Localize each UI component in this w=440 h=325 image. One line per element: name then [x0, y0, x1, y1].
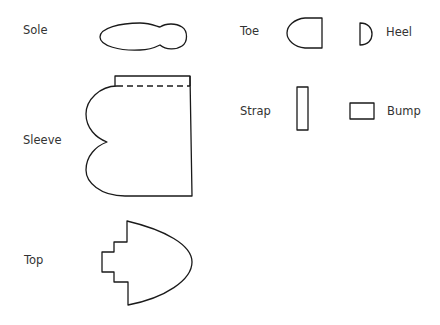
bump-shape — [350, 103, 374, 119]
top-shape — [102, 221, 192, 305]
sleeve-shape — [86, 76, 192, 196]
pattern-shapes — [0, 0, 440, 325]
toe-shape — [287, 18, 322, 48]
strap-shape — [297, 87, 308, 130]
sole-shape — [100, 23, 187, 50]
heel-shape — [360, 23, 372, 45]
